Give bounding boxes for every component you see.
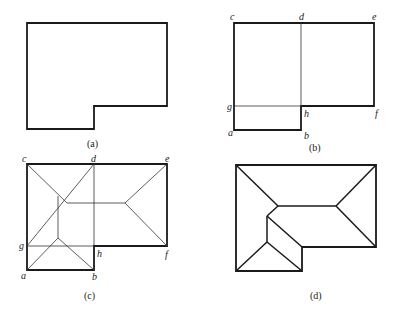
label-b: b	[304, 130, 309, 141]
valley-line	[267, 206, 278, 216]
label-b: b	[92, 271, 97, 282]
panel-b: c d e g h f a b (b)	[227, 11, 379, 154]
outline-shape	[236, 165, 376, 271]
hip-line	[27, 238, 58, 270]
label-c: c	[22, 153, 27, 164]
label-g: g	[19, 240, 24, 251]
hip-line	[125, 164, 167, 203]
label-d: d	[91, 153, 97, 164]
caption-c: (c)	[84, 290, 95, 302]
label-a: a	[228, 127, 233, 138]
label-d: d	[299, 11, 305, 22]
outline-shape	[27, 23, 167, 129]
caption-b: (b)	[309, 142, 321, 154]
label-a: a	[21, 270, 26, 281]
label-h: h	[304, 108, 309, 119]
label-h: h	[97, 248, 102, 259]
hip-line	[27, 164, 67, 203]
hip-line	[267, 242, 302, 271]
hip-line	[336, 165, 376, 206]
hip-line	[336, 206, 376, 247]
panel-c: c d e g h f a b (c)	[19, 153, 170, 302]
valley-line	[267, 216, 302, 247]
hip-line	[27, 164, 94, 246]
label-f: f	[165, 249, 169, 260]
caption-a: (a)	[87, 138, 98, 150]
label-e: e	[372, 11, 377, 22]
caption-d: (d)	[310, 290, 322, 302]
panel-d: (d)	[236, 165, 376, 302]
panel-a: (a)	[27, 23, 167, 150]
hip-line	[236, 242, 267, 271]
label-e: e	[165, 153, 170, 164]
label-c: c	[230, 11, 235, 22]
hip-line	[125, 203, 167, 246]
hip-line	[58, 238, 94, 270]
label-g: g	[227, 101, 232, 112]
roof-plan-figure: (a) c d e g h f a b (b) c d e g h f	[0, 0, 398, 314]
hip-line	[236, 165, 278, 206]
label-f: f	[375, 108, 379, 119]
